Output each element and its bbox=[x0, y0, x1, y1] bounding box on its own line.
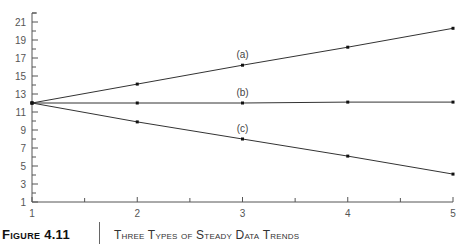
data-point bbox=[31, 102, 34, 105]
x-tick-label: 5 bbox=[450, 208, 456, 219]
data-point bbox=[346, 46, 349, 49]
data-point bbox=[346, 101, 349, 104]
data-point bbox=[136, 83, 139, 86]
y-tick-label: 15 bbox=[15, 71, 27, 82]
x-tick-label: 1 bbox=[29, 208, 35, 219]
data-point bbox=[346, 155, 349, 158]
y-tick-label: 5 bbox=[20, 161, 26, 172]
data-point bbox=[136, 120, 139, 123]
data-point bbox=[452, 101, 455, 104]
series-label: (b) bbox=[236, 87, 248, 98]
series-lines: (a)(b)(c) bbox=[31, 27, 455, 176]
y-tick-label: 7 bbox=[20, 143, 26, 154]
axes: 1357911131517192112345 bbox=[15, 13, 456, 219]
x-tick-label: 3 bbox=[240, 208, 246, 219]
figure-number: Figure 4.11 bbox=[2, 227, 70, 242]
y-tick-label: 1 bbox=[20, 197, 26, 208]
line-chart: 1357911131517192112345 (a)(b)(c) bbox=[0, 0, 468, 226]
series-label: (c) bbox=[237, 123, 249, 134]
data-point bbox=[136, 102, 139, 105]
y-tick-label: 9 bbox=[20, 125, 26, 136]
x-tick-label: 4 bbox=[345, 208, 351, 219]
figure-caption: Figure 4.11 Three Types of Steady Data T… bbox=[0, 226, 468, 246]
data-point bbox=[241, 64, 244, 67]
y-tick-label: 21 bbox=[15, 17, 27, 28]
caption-divider bbox=[99, 222, 100, 244]
y-tick-label: 11 bbox=[16, 107, 27, 118]
figure-title: Three Types of Steady Data Trends bbox=[114, 228, 299, 242]
data-point bbox=[452, 27, 455, 30]
x-tick-label: 2 bbox=[134, 208, 140, 219]
y-tick-label: 17 bbox=[15, 53, 27, 64]
data-point bbox=[452, 173, 455, 176]
series-label: (a) bbox=[236, 49, 248, 60]
y-tick-label: 3 bbox=[20, 179, 26, 190]
data-point bbox=[241, 138, 244, 141]
y-tick-label: 13 bbox=[15, 89, 27, 100]
y-tick-label: 19 bbox=[15, 35, 27, 46]
data-point bbox=[241, 102, 244, 105]
